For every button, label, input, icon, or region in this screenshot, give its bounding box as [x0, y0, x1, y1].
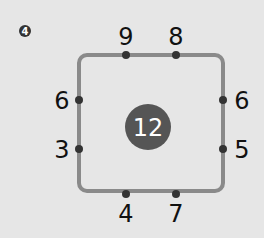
center-target: 12: [125, 104, 171, 150]
right-number-1: 6: [234, 87, 249, 115]
dot-bottom-right: [172, 190, 180, 198]
dot-left-top: [75, 96, 83, 104]
problem-number-badge: 4: [19, 25, 31, 37]
problem-number: 4: [22, 26, 29, 37]
dot-top-right: [172, 51, 180, 59]
left-number-1: 6: [54, 87, 69, 115]
dot-left-bottom: [75, 145, 83, 153]
left-number-2: 3: [54, 136, 69, 164]
dot-bottom-left: [122, 190, 130, 198]
number-square-diagram: 4 9 8 6 3 6 5 4 7 12: [0, 0, 264, 238]
bottom-number-2: 7: [168, 200, 183, 228]
bottom-number-1: 4: [118, 200, 133, 228]
center-value: 12: [133, 114, 164, 142]
dot-right-top: [219, 96, 227, 104]
top-number-2: 8: [168, 23, 183, 51]
right-number-2: 5: [234, 136, 249, 164]
dot-right-bottom: [219, 145, 227, 153]
top-number-1: 9: [118, 23, 133, 51]
dot-top-left: [122, 51, 130, 59]
